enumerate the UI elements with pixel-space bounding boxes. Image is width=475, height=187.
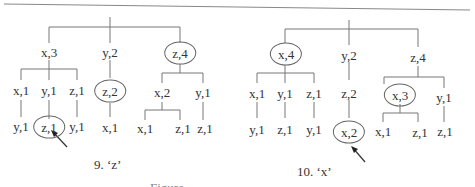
tree-node: x,2 <box>154 86 170 99</box>
tree-node: z,1 <box>437 125 453 138</box>
tree-node-highlighted: z,2 <box>94 80 126 103</box>
panel-caption: 9. ‘z’ <box>94 157 121 173</box>
tree-node: x,1 <box>13 84 29 97</box>
tree-node: y,1 <box>436 91 451 104</box>
tree-node-highlighted: z,4 <box>164 42 196 65</box>
tree-node: z,1 <box>69 84 85 97</box>
figure-canvas: x,3 y,2 z,4 x,1 y,1 z,1 z,2 x,2 y,1 y,1 … <box>0 0 475 187</box>
tree-node: z,1 <box>197 122 213 135</box>
tree-node: x,1 <box>375 125 391 138</box>
tree-node: y,1 <box>306 123 321 136</box>
top-rule <box>4 4 470 10</box>
tree-node: z,2 <box>341 87 357 100</box>
tree-node-highlighted: x,4 <box>270 43 302 66</box>
tree-node: y,1 <box>69 120 84 133</box>
tree-node: z,1 <box>277 123 293 136</box>
tree-node: y,1 <box>195 86 210 99</box>
tree-node: x,1 <box>102 121 118 134</box>
tree-node: y,1 <box>277 87 292 100</box>
tree-node: y,1 <box>13 120 28 133</box>
tree-node: y,2 <box>341 49 356 62</box>
tree-node-selected: x,2 <box>333 121 365 144</box>
tree-node: y,2 <box>102 46 117 59</box>
tree-node: z,1 <box>412 126 428 139</box>
tree-node: z,1 <box>175 122 191 135</box>
tree-node-highlighted: x,3 <box>384 84 416 107</box>
tree-node-selected: z,1 <box>33 116 65 139</box>
tree-node: z,4 <box>410 51 426 64</box>
tree-node: y,1 <box>249 123 264 136</box>
tree-node: z,1 <box>306 87 322 100</box>
tree-node: y,1 <box>41 84 56 97</box>
tree-node: x,3 <box>41 46 57 59</box>
panel-caption: 10. ‘x’ <box>297 164 332 180</box>
figure-caption-partial: Figure ... <box>150 180 197 187</box>
tree-node: x,1 <box>137 122 153 135</box>
tree-node: x,1 <box>249 87 265 100</box>
